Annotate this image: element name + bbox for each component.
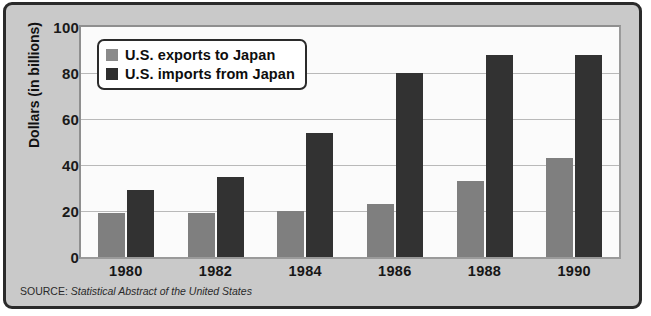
- bar-imports-1986: [396, 73, 423, 257]
- bar-exports-1986: [367, 204, 394, 257]
- bar-chart-figure: Dollars (in billions) 020406080100 19801…: [0, 0, 651, 316]
- bar-exports-1982: [188, 213, 215, 257]
- source-note: SOURCE: Statistical Abstract of the Unit…: [20, 285, 252, 297]
- bar-exports-1990: [546, 158, 573, 257]
- legend-item-exports: U.S. exports to Japan: [106, 45, 295, 64]
- bar-imports-1984: [306, 133, 333, 257]
- legend-label-imports: U.S. imports from Japan: [125, 66, 295, 82]
- bar-exports-1988: [457, 181, 484, 257]
- y-axis-tick-labels: 020406080100: [0, 0, 79, 316]
- x-axis-tick-label-1986: 1986: [378, 263, 411, 279]
- bar-imports-1988: [486, 55, 513, 257]
- legend-swatch-imports-icon: [106, 68, 118, 80]
- legend-swatch-exports-icon: [106, 49, 118, 61]
- gridline: [81, 119, 619, 120]
- gridline: [81, 165, 619, 166]
- y-axis-tick-label: 60: [5, 112, 79, 127]
- source-label: SOURCE:: [20, 285, 68, 297]
- gridline: [81, 211, 619, 212]
- bar-exports-1984: [277, 211, 304, 257]
- y-axis-tick-label: 80: [5, 66, 79, 81]
- bar-imports-1990: [575, 55, 602, 257]
- x-axis-tick-label-1990: 1990: [557, 263, 590, 279]
- legend-item-imports: U.S. imports from Japan: [106, 64, 295, 83]
- chart-legend: U.S. exports to Japan U.S. imports from …: [97, 39, 307, 90]
- source-title: Statistical Abstract of the United State…: [71, 285, 252, 297]
- x-axis-tick-label-1982: 1982: [199, 263, 232, 279]
- x-axis-tick-label-1988: 1988: [468, 263, 501, 279]
- bar-imports-1980: [127, 190, 154, 257]
- y-axis-tick-label: 40: [5, 158, 79, 173]
- y-axis-tick-label: 0: [5, 250, 79, 265]
- bar-imports-1982: [217, 177, 244, 258]
- y-axis-tick-label: 20: [5, 204, 79, 219]
- x-axis-tick-label-1980: 1980: [109, 263, 142, 279]
- legend-label-exports: U.S. exports to Japan: [125, 47, 275, 63]
- y-axis-tick-label: 100: [5, 20, 79, 35]
- bar-exports-1980: [98, 213, 125, 257]
- x-axis-tick-label-1984: 1984: [288, 263, 321, 279]
